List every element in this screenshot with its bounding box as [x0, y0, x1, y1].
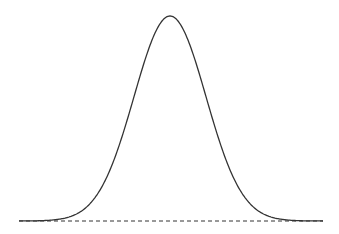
- gaussian-curve: [19, 16, 323, 221]
- normal-distribution-chart: [0, 0, 339, 234]
